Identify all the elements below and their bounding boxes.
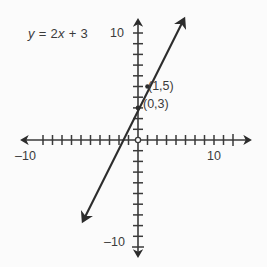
coordinate-plane-figure: y = 2x + 3 10 –10 –10 10 (1,5) (0,3): [0, 0, 267, 267]
equation-variable-y: y: [28, 26, 35, 41]
equation-variable-x: x: [58, 26, 65, 41]
point-label-1-5: (1,5): [148, 80, 174, 93]
point-marker-0-3: [136, 106, 141, 111]
equation-label: y = 2x + 3: [28, 27, 88, 40]
origin-marker: [135, 137, 140, 142]
function-line: [83, 19, 184, 221]
x-axis-label-negative-ten: –10: [15, 150, 36, 163]
x-axis-label-positive-ten: 10: [207, 150, 221, 163]
function-line-group: [83, 19, 184, 221]
equation-operator: = 2: [35, 26, 58, 41]
y-axis-label-positive-ten: 10: [110, 27, 124, 40]
y-axis-label-negative-ten: –10: [104, 236, 125, 249]
point-label-0-3: (0,3): [143, 98, 169, 111]
equation-constant: + 3: [65, 26, 88, 41]
